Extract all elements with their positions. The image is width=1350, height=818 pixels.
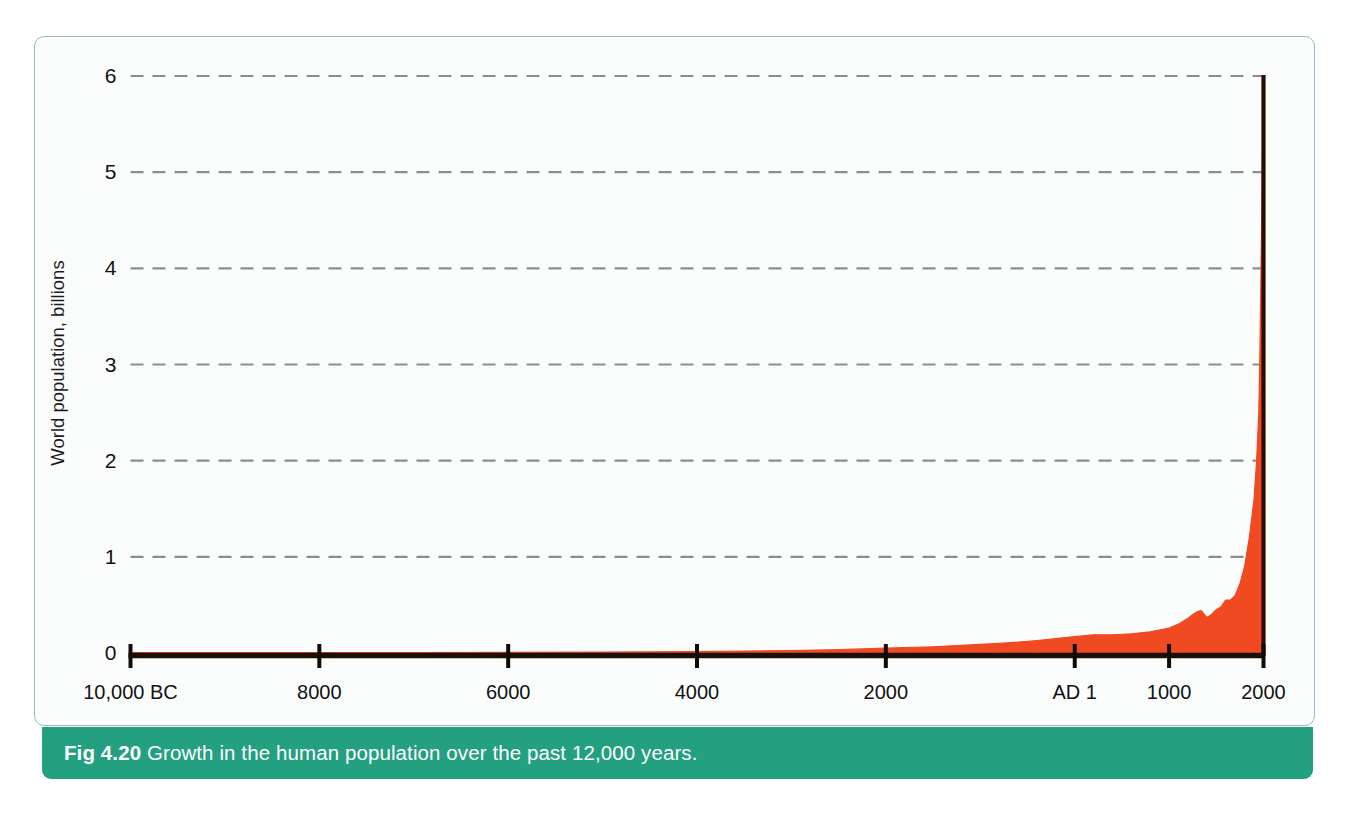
figure-number-label: Fig 4.20 <box>64 741 141 764</box>
x-tick-label-1: 8000 <box>219 682 419 702</box>
x-tick-label-2: 6000 <box>408 682 608 702</box>
x-tick-label-7: 2000 <box>1164 682 1350 702</box>
figure-panel <box>34 36 1315 726</box>
y-axis-title: World population, billions <box>47 243 69 483</box>
y-tick-label-0: 0 <box>83 642 117 663</box>
figure-caption-text: Growth in the human population over the … <box>141 741 697 764</box>
figure-root: World population, billions 0123456 10,00… <box>0 0 1350 818</box>
x-tick-label-0: 10,000 BC <box>31 682 231 702</box>
y-tick-label-2: 2 <box>83 450 117 471</box>
figure-caption: Fig 4.20 Growth in the human population … <box>64 741 697 765</box>
x-tick-label-4: 2000 <box>786 682 986 702</box>
y-tick-label-4: 4 <box>83 257 117 278</box>
figure-caption-bar: Fig 4.20 Growth in the human population … <box>42 727 1313 779</box>
y-tick-label-6: 6 <box>83 65 117 86</box>
x-tick-label-3: 4000 <box>597 682 797 702</box>
y-tick-label-3: 3 <box>83 354 117 375</box>
y-tick-label-1: 1 <box>83 546 117 567</box>
y-tick-label-5: 5 <box>83 161 117 182</box>
